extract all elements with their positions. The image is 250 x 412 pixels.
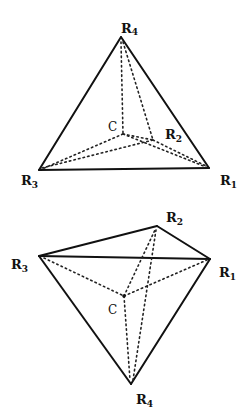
label-r2: R2 <box>165 127 182 144</box>
label-c: C <box>108 303 117 317</box>
top-solid-edges <box>39 37 209 170</box>
label-r3: R3 <box>21 173 38 190</box>
edge-r3-r2 <box>42 140 153 168</box>
edge-c-r2 <box>123 134 153 140</box>
label-r3: R3 <box>11 257 28 274</box>
label-r4: R4 <box>121 21 138 37</box>
edge-c-r4 <box>124 296 130 380</box>
edge-c-r3 <box>44 258 124 296</box>
edge-r4-r1 <box>121 37 209 168</box>
edge-r4-r3 <box>39 37 121 170</box>
label-r1: R1 <box>219 265 236 282</box>
tetrahedra-diagram: R4 R3 R1 R2 C R2 R3 R1 R4 C <box>0 0 250 412</box>
bottom-tetrahedron: R2 R3 R1 R4 C <box>11 210 236 409</box>
edge-c-r4 <box>121 42 123 134</box>
bottom-hidden-edges <box>44 230 207 380</box>
edge-r3-r4 <box>39 256 131 384</box>
center-point <box>122 294 126 298</box>
edge-c-r1 <box>124 260 207 296</box>
edge-r4-r2 <box>123 42 153 140</box>
edge-r3-r1 <box>39 168 209 170</box>
edge-r3-r1 <box>39 256 210 259</box>
label-r1: R1 <box>220 173 237 190</box>
edge-r3-r2 <box>39 226 157 256</box>
edge-r2-r1 <box>157 226 210 259</box>
top-hidden-edges <box>42 42 206 169</box>
label-c: C <box>108 120 117 134</box>
label-r2: R2 <box>166 210 183 227</box>
edge-c-r3 <box>42 134 123 169</box>
bottom-labels: R2 R3 R1 R4 C <box>11 210 236 409</box>
label-r4: R4 <box>136 392 153 409</box>
top-tetrahedron: R4 R3 R1 R2 C <box>21 21 237 190</box>
edge-r1-r4 <box>131 259 210 384</box>
